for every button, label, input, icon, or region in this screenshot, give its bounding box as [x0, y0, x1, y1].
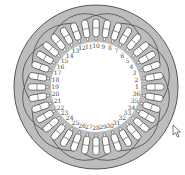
slot-number: 12 [78, 44, 86, 51]
slot-number: 19 [51, 83, 59, 90]
slot [93, 19, 99, 40]
stator-winding-diagram: 1234567891011121314151617181920212223242… [0, 0, 185, 175]
slot-number: 35 [131, 97, 139, 104]
slot-number: 36 [133, 90, 141, 97]
slot [143, 84, 164, 90]
slot-number: 3 [133, 69, 137, 76]
slot [28, 84, 49, 90]
slot-number: 2 [134, 76, 138, 83]
slot-number: 6 [120, 52, 124, 59]
slot-number: 18 [52, 76, 60, 83]
slot-number: 5 [125, 57, 129, 64]
slot-number: 4 [130, 63, 134, 70]
slot [93, 134, 99, 155]
slot-number: 7 [115, 47, 119, 54]
slot-number: 34 [128, 104, 136, 111]
slot-number: 8 [108, 44, 112, 51]
mouse-cursor-icon [172, 124, 182, 138]
slot-number: 9 [101, 43, 105, 50]
slot-number: 10 [92, 42, 100, 49]
slot-number: 11 [85, 43, 93, 50]
rotor-bore [51, 42, 141, 132]
slot-number: 1 [135, 83, 139, 90]
